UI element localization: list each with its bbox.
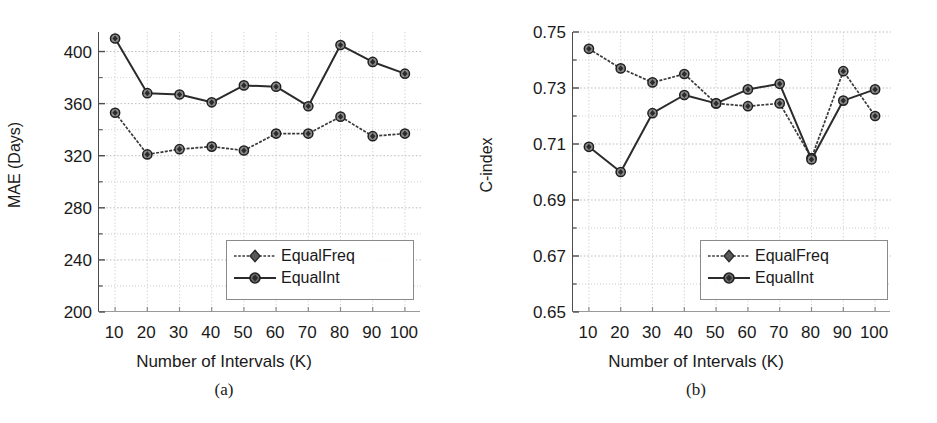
series-equalfreq	[111, 108, 410, 159]
y-tick-label: 360	[32, 95, 92, 112]
panel-a-caption: (a)	[14, 380, 434, 400]
series-equalfreq	[584, 44, 879, 162]
x-tick-label: 100	[860, 324, 888, 341]
x-tick-label: 20	[137, 324, 156, 341]
legend-label-equalint: EqualInt	[755, 269, 814, 287]
circle-marker	[233, 270, 277, 286]
x-tick-label: 70	[769, 324, 788, 341]
diamond-marker	[233, 248, 277, 264]
x-tick-label: 40	[674, 324, 693, 341]
y-tick-label: 400	[32, 43, 92, 60]
panel-b-legend: EqualFreq EqualInt	[700, 240, 888, 300]
circle-marker	[707, 270, 751, 286]
y-tick-label: 0.65	[506, 304, 566, 321]
panel-a: MAE (Days) 200240280320360400 1020304050…	[0, 0, 468, 423]
legend-entry-equalfreq: EqualFreq	[233, 245, 405, 267]
legend-entry-equalfreq: EqualFreq	[707, 245, 879, 267]
x-tick-label: 90	[362, 324, 381, 341]
x-tick-label: 50	[706, 324, 725, 341]
legend-label-equalfreq: EqualFreq	[281, 247, 355, 265]
x-tick-label: 100	[390, 324, 418, 341]
x-tick-label: 70	[298, 324, 317, 341]
y-tick-label: 0.71	[506, 136, 566, 153]
y-tick-label: 0.73	[506, 80, 566, 97]
panel-b-x-axis-title: Number of Intervals (K)	[486, 352, 906, 372]
x-tick-label: 60	[266, 324, 285, 341]
y-tick-label: 0.75	[506, 24, 566, 41]
panel-b-caption: (b)	[486, 380, 906, 400]
x-tick-label: 30	[642, 324, 661, 341]
x-tick-label: 60	[737, 324, 756, 341]
x-tick-label: 50	[233, 324, 252, 341]
y-tick-label: 0.67	[506, 248, 566, 265]
legend-label-equalfreq: EqualFreq	[755, 247, 829, 265]
legend-label-equalint: EqualInt	[281, 269, 340, 287]
series-equalint	[111, 34, 410, 111]
x-tick-label: 90	[833, 324, 852, 341]
panel-a-legend: EqualFreq EqualInt	[226, 240, 414, 300]
y-tick-label: 240	[32, 251, 92, 268]
x-tick-label: 80	[801, 324, 820, 341]
x-tick-label: 40	[201, 324, 220, 341]
figure-two-panel-line-charts: MAE (Days) 200240280320360400 1020304050…	[0, 0, 937, 423]
y-tick-label: 0.69	[506, 192, 566, 209]
legend-entry-equalint: EqualInt	[233, 267, 405, 289]
x-tick-label: 10	[105, 324, 124, 341]
diamond-marker	[707, 248, 751, 264]
y-tick-label: 320	[32, 147, 92, 164]
x-tick-label: 30	[169, 324, 188, 341]
legend-entry-equalint: EqualInt	[707, 267, 879, 289]
x-tick-label: 20	[610, 324, 629, 341]
x-tick-label: 80	[330, 324, 349, 341]
y-tick-label: 200	[32, 304, 92, 321]
x-tick-label: 10	[578, 324, 597, 341]
panel-b: C-index 0.650.670.690.710.730.75 1020304…	[468, 0, 936, 423]
panel-a-x-axis-title: Number of Intervals (K)	[14, 352, 434, 372]
y-tick-label: 280	[32, 199, 92, 216]
